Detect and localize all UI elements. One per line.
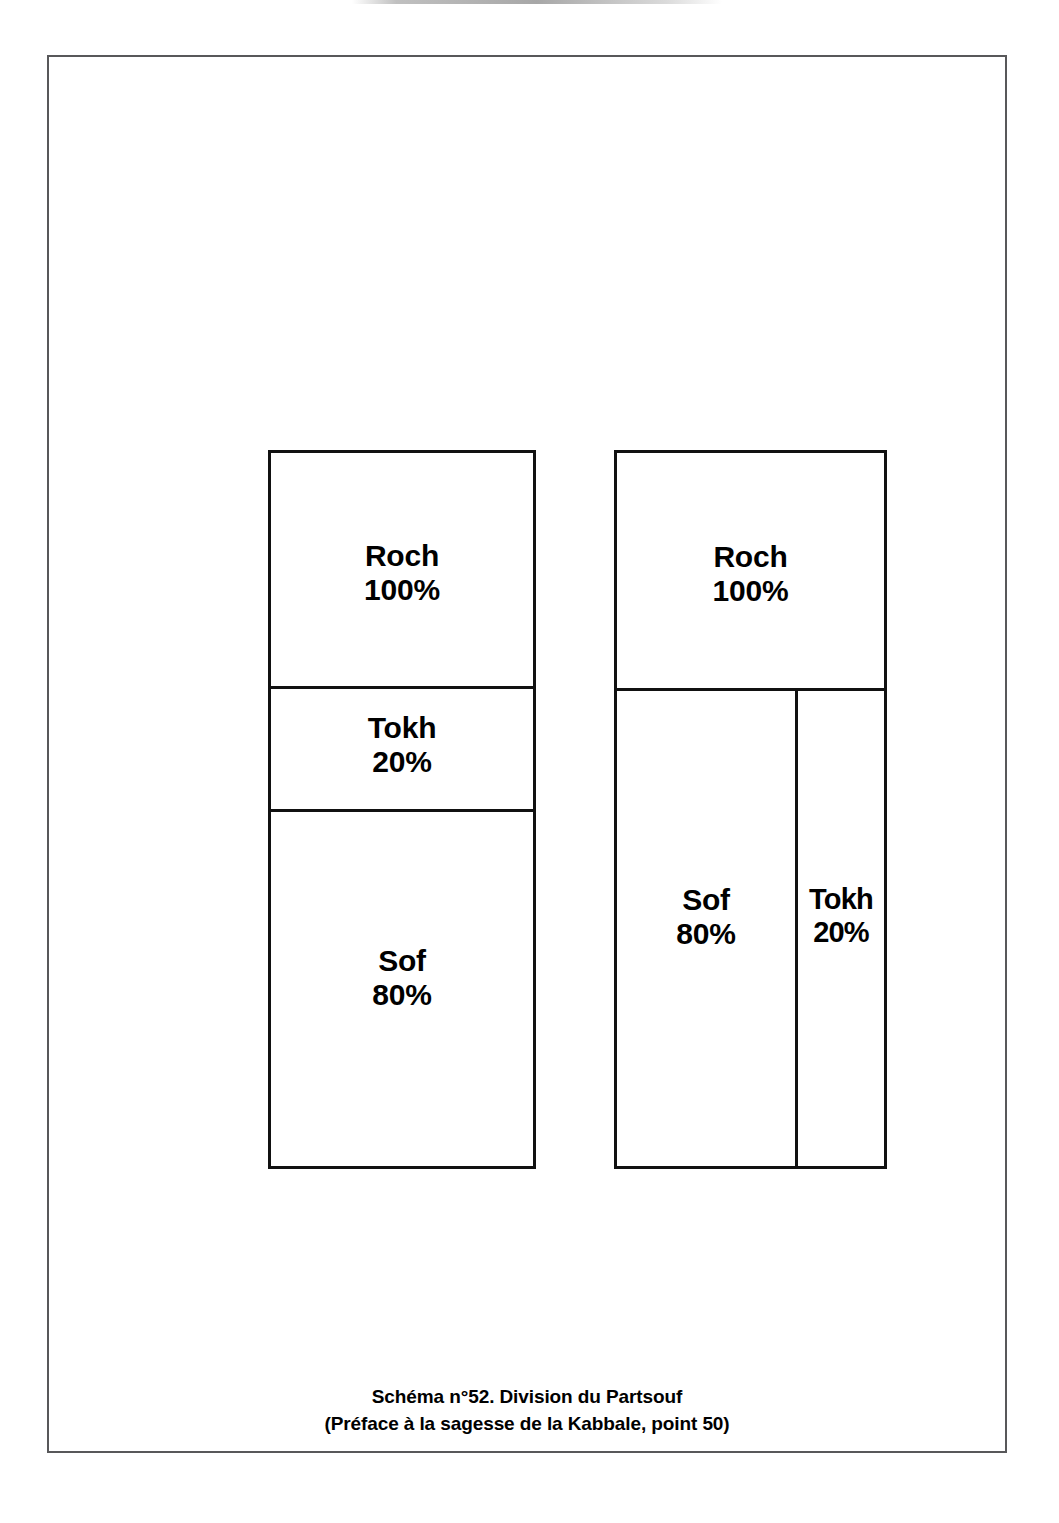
right-tokh-percent: 20% <box>798 916 884 949</box>
right-sof-percent: 80% <box>617 917 795 951</box>
left-segment-tokh: Tokh 20% <box>271 689 533 812</box>
right-roch-percent: 100% <box>617 574 884 608</box>
left-tokh-percent: 20% <box>271 745 533 779</box>
right-roch-label: Roch 100% <box>617 540 884 608</box>
right-segment-sof: Sof 80% <box>617 691 798 1166</box>
right-sof-name: Sof <box>617 883 795 917</box>
diagram-right: Roch 100% Sof 80% Tokh 20% <box>614 450 887 1169</box>
right-roch-name: Roch <box>617 540 884 574</box>
left-sof-name: Sof <box>271 944 533 978</box>
left-tokh-label: Tokh 20% <box>271 711 533 779</box>
figure-caption: Schéma n°52. Division du Partsouf (Préfa… <box>49 1384 1005 1438</box>
left-tokh-name: Tokh <box>271 711 533 745</box>
left-sof-percent: 80% <box>271 978 533 1012</box>
left-roch-name: Roch <box>271 539 533 573</box>
right-tokh-name: Tokh <box>798 883 884 916</box>
right-segment-roch: Roch 100% <box>617 453 884 691</box>
left-sof-label: Sof 80% <box>271 944 533 1012</box>
left-segment-sof: Sof 80% <box>271 812 533 1166</box>
right-tokh-label: Tokh 20% <box>798 883 884 949</box>
right-segment-tokh: Tokh 20% <box>798 691 884 1166</box>
page-frame: Roch 100% Tokh 20% Sof 80% Roch 100% <box>47 55 1007 1453</box>
left-roch-percent: 100% <box>271 573 533 607</box>
scan-artifact-smudge <box>352 0 722 4</box>
caption-line-2: (Préface à la sagesse de la Kabbale, poi… <box>49 1411 1005 1438</box>
right-sof-label: Sof 80% <box>617 883 795 951</box>
left-segment-roch: Roch 100% <box>271 453 533 689</box>
right-lower-split: Sof 80% Tokh 20% <box>617 691 884 1166</box>
diagram-left: Roch 100% Tokh 20% Sof 80% <box>268 450 536 1169</box>
caption-line-1: Schéma n°52. Division du Partsouf <box>49 1384 1005 1411</box>
left-roch-label: Roch 100% <box>271 539 533 607</box>
